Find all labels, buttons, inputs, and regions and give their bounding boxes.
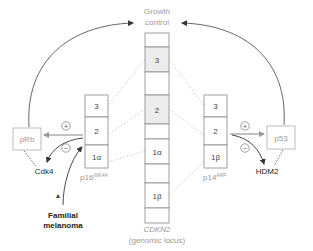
prb-label: pRb [20,135,35,144]
p53-label: p53 [274,134,288,143]
p53-hdm2-link [274,150,283,166]
locus-exon-2: 2 [155,106,160,115]
arrow-prb-to-growth [29,23,133,127]
disease-line2: melanoma [43,221,83,230]
triangle-icon: ▲ [55,192,62,199]
locus-subtitle: (genomic locus) [129,236,186,245]
cdkn2-diagram: Growth control 3 2 1α 1β CDKN2 (genomic … [0,0,313,251]
title-line2: control [145,18,169,27]
hdm2-label: HDM2 [256,167,279,176]
p14-exon-1beta: 1β [211,153,220,162]
p16-exon-1alpha: 1α [92,153,101,162]
locus-exon-3: 3 [155,56,160,65]
p14-exon-3: 3 [213,102,218,111]
prb-cdk4-link [24,151,36,166]
svg-text:−: − [243,145,247,152]
cdk4-label: Cdk4 [35,167,54,176]
svg-text:−: − [64,145,68,152]
title-line1: Growth [144,7,170,16]
p16-exon-2: 2 [94,127,99,136]
locus-exon-1beta: 1β [152,192,161,201]
arrow-p53-to-growth [182,23,284,125]
disease-line1: Familial [48,211,78,220]
p14-label: p14ARF [203,172,227,182]
svg-text:+: + [243,123,247,130]
p16-exon-3: 3 [94,102,99,111]
p16-label: p16INK4A [80,172,108,182]
svg-text:+: + [64,123,68,130]
locus-name: CDKN2 [143,225,171,234]
locus-exon-1alpha: 1α [152,148,161,157]
p14-exon-2: 2 [213,127,218,136]
